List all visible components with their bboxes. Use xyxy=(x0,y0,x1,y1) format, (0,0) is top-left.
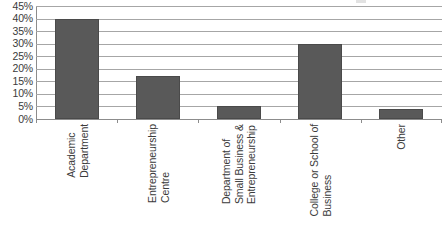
bar-chart: 45%40%35%30%25%20%15%10%5%0% AcademicDep… xyxy=(0,0,442,239)
y-axis-tick-label: 0% xyxy=(0,114,33,125)
x-axis-label-line: Department of xyxy=(220,124,233,204)
x-axis-label-line: Business xyxy=(320,124,333,217)
x-axis-category-label: AcademicDepartment xyxy=(64,124,89,178)
plot-area xyxy=(36,6,442,119)
y-axis-tick-labels: 45%40%35%30%25%20%15%10%5%0% xyxy=(0,0,33,119)
scan-artifact-mark xyxy=(356,0,366,3)
y-axis-tick-label: 25% xyxy=(0,51,33,62)
x-axis-label-line: Department xyxy=(77,124,90,178)
x-axis-label-line: Entrepreneurship xyxy=(145,124,158,203)
y-axis-tick-label: 15% xyxy=(0,76,33,87)
x-axis-tick xyxy=(280,119,281,123)
x-axis-label-slot: EntrepreneurshipCentre xyxy=(117,124,198,239)
x-axis-tick xyxy=(117,119,118,123)
y-axis-tick-label: 35% xyxy=(0,26,33,37)
y-axis-tick-label: 20% xyxy=(0,63,33,74)
x-axis-label-slot: College or School ofBusiness xyxy=(280,124,361,239)
x-axis-tick xyxy=(198,119,199,123)
y-axis-tick-label: 5% xyxy=(0,101,33,112)
y-axis-tick-label: 45% xyxy=(0,1,33,12)
x-axis-label-slot: Other xyxy=(361,124,442,239)
x-axis-tick xyxy=(361,119,362,123)
x-axis-label-slot: Department ofSmall Business &Entrepreneu… xyxy=(198,124,279,239)
x-axis-category-label: EntrepreneurshipCentre xyxy=(145,124,170,203)
bar-series xyxy=(36,6,442,119)
y-axis-tick-label: 40% xyxy=(0,13,33,24)
x-axis-tick xyxy=(36,119,37,123)
x-axis-category-labels: AcademicDepartmentEntrepreneurshipCentre… xyxy=(36,124,442,239)
bar xyxy=(136,76,180,119)
x-axis-label-line: Small Business & xyxy=(233,124,246,204)
bar xyxy=(298,44,342,119)
x-axis-label-line: Academic xyxy=(64,124,77,178)
bar xyxy=(379,109,423,119)
x-axis-label-line: Entrepreneurship xyxy=(245,124,258,204)
y-axis-tick-label: 30% xyxy=(0,38,33,49)
bar xyxy=(217,106,261,119)
x-axis-category-label: Other xyxy=(395,124,408,150)
y-axis-tick-label: 10% xyxy=(0,88,33,99)
x-axis-category-label: College or School ofBusiness xyxy=(308,124,333,217)
x-axis-label-line: Centre xyxy=(158,124,171,203)
bar xyxy=(55,19,99,119)
x-axis-label-line: Other xyxy=(395,124,408,150)
x-axis-label-line: College or School of xyxy=(308,124,321,217)
x-axis-category-label: Department ofSmall Business &Entrepreneu… xyxy=(220,124,258,204)
x-axis-label-slot: AcademicDepartment xyxy=(36,124,117,239)
